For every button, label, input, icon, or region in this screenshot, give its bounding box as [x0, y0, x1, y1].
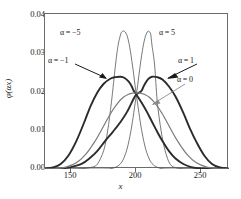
y-axis-title: φ(αx) [4, 52, 13, 126]
y-tick-label-0.03: 0.03 [11, 48, 45, 57]
y-axis-title-phi: φ [3, 93, 13, 98]
y-tick-label-0.02: 0.02 [11, 87, 45, 96]
curves-svg [45, 14, 229, 169]
annotation-alpha-minus1: α = −1 [48, 57, 68, 65]
x-tick-label-250: 250 [185, 171, 215, 180]
x-tick-label-200: 200 [120, 171, 150, 180]
x-axis-title: x [0, 182, 241, 191]
y-axis-title-arg: (αx) [3, 79, 13, 94]
y-tick-label-0.01: 0.01 [11, 125, 45, 134]
figure-chart-phi-alpha-x: 0.04 0.03 0.02 0.01 0.00 150 200 250 x φ… [0, 0, 241, 199]
x-tick-label-150: 150 [55, 171, 85, 180]
y-tick-label-0.04: 0.04 [11, 10, 45, 19]
curves-group [45, 31, 229, 169]
annotation-alpha-1: α = 1 [178, 57, 194, 65]
annotation-alpha-5: α = 5 [159, 29, 175, 37]
annotation-alpha-minus5: α = −5 [60, 29, 80, 37]
arrow-head-alpha-minus1 [99, 73, 107, 79]
x-axis-title-text: x [119, 181, 123, 191]
curve-0 [45, 93, 229, 169]
annotation-alpha-0: α = 0 [177, 76, 193, 84]
y-tick-label-0.00: 0.00 [11, 163, 45, 172]
